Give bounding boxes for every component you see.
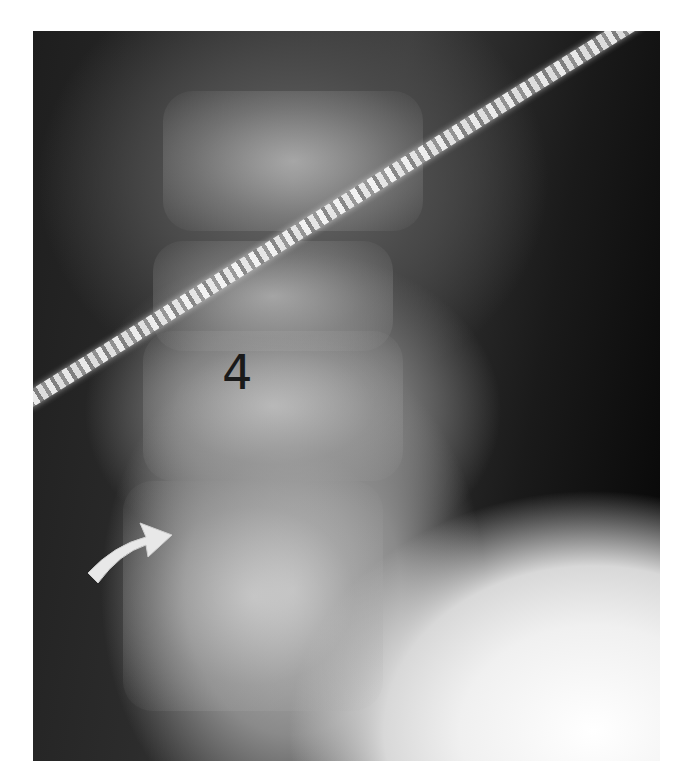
vertebra-upper (163, 91, 423, 231)
xray-image (33, 31, 660, 761)
curved-arrow-icon (84, 515, 174, 585)
vertebra-c4 (143, 331, 403, 481)
vertebra-label: 4 (222, 344, 253, 400)
